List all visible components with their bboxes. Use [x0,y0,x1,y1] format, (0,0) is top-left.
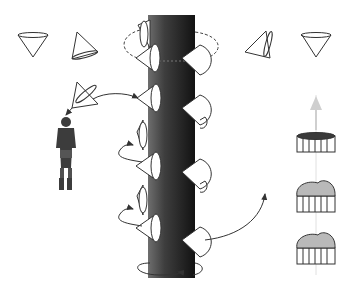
cone-1-icon [18,33,48,58]
spiral-cone-l4-icon [137,120,147,150]
person-figure [56,117,76,190]
cup-2-icon [297,181,335,212]
cone-2-icon [72,32,98,61]
cup-1-icon [297,133,335,153]
spiral-cone-l6-icon [137,185,147,215]
diagram-svg [0,0,351,289]
approach-arrow [93,94,138,99]
cup-3-icon [297,233,335,264]
diagram-canvas [0,0,351,289]
spiral-cone-l1-icon [138,20,150,48]
cone-3-icon [245,31,274,58]
exit-arrow [205,194,265,240]
person-link-arrow [66,108,72,115]
cone-approach-icon [72,82,98,108]
cone-4-icon [301,33,331,58]
loop-arrow-2 [119,209,142,226]
loop-arrow-1 [119,145,142,162]
